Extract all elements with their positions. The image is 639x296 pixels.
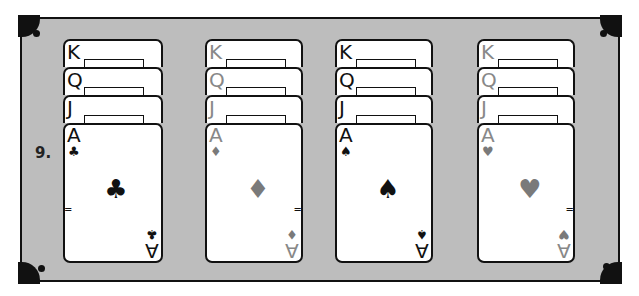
card-rank: J <box>67 96 73 120</box>
card-rank: J <box>209 96 215 120</box>
card-edge-tab <box>226 115 286 123</box>
diamond-icon: ♦ <box>245 175 271 203</box>
card-edge-mark: = <box>566 205 574 215</box>
card-rank: Q <box>67 68 83 92</box>
corner-dot <box>38 265 45 272</box>
club-icon: ♣ <box>68 145 80 159</box>
card-rank: K <box>339 40 352 64</box>
card-rank: A <box>285 240 299 262</box>
card-rank: K <box>209 40 222 64</box>
card-edge-mark: = <box>294 205 302 215</box>
card-king-hearts[interactable]: K <box>477 39 575 67</box>
card-rank: A <box>481 124 495 146</box>
card-ace-spades[interactable]: A ♠ ♠ ♠ A <box>335 123 433 263</box>
card-jack-diamonds[interactable]: J <box>205 95 303 123</box>
card-column-hearts: K Q J A ♥ ♥ = ♥ A <box>477 39 575 263</box>
card-edge-tab <box>356 115 416 123</box>
card-rank: J <box>481 96 487 120</box>
card-edge-tab <box>498 115 558 123</box>
card-rank: Q <box>481 68 497 92</box>
card-edge-mark: = <box>64 205 72 215</box>
card-rank: A <box>339 124 353 146</box>
card-king-clubs[interactable]: K <box>63 39 163 67</box>
card-rank: J <box>339 96 345 120</box>
spade-icon: ♠ <box>340 145 352 159</box>
card-rank: Q <box>339 68 355 92</box>
card-ace-clubs[interactable]: A ♣ ♣ = ♣ A <box>63 123 163 263</box>
card-rank: K <box>67 40 80 64</box>
card-king-diamonds[interactable]: K <box>205 39 303 67</box>
card-edge-tab <box>84 87 144 95</box>
heart-icon: ♥ <box>517 175 543 203</box>
card-jack-hearts[interactable]: J <box>477 95 575 123</box>
card-queen-spades[interactable]: Q <box>335 67 433 95</box>
card-rank: A <box>67 124 81 146</box>
card-rank: K <box>481 40 494 64</box>
card-edge-tab <box>84 59 144 67</box>
card-edge-tab <box>498 59 558 67</box>
card-jack-spades[interactable]: J <box>335 95 433 123</box>
card-edge-tab <box>226 59 286 67</box>
card-king-spades[interactable]: K <box>335 39 433 67</box>
card-edge-tab <box>84 115 144 123</box>
card-rank: Q <box>209 68 225 92</box>
card-column-spades: K Q J A ♠ ♠ ♠ A <box>335 39 433 263</box>
card-rank: A <box>145 240 159 262</box>
corner-dot <box>603 263 610 270</box>
diamond-icon: ♦ <box>210 145 222 159</box>
card-queen-clubs[interactable]: Q <box>63 67 163 95</box>
card-edge-tab <box>498 87 558 95</box>
card-column-clubs: K Q J A ♣ ♣ = ♣ A <box>63 39 163 263</box>
card-queen-hearts[interactable]: Q <box>477 67 575 95</box>
card-edge-tab <box>356 59 416 67</box>
card-edge-tab <box>226 87 286 95</box>
club-icon: ♣ <box>103 175 129 203</box>
card-edge-tab <box>356 87 416 95</box>
spade-icon: ♠ <box>375 175 401 203</box>
heart-icon: ♥ <box>482 145 494 159</box>
card-queen-diamonds[interactable]: Q <box>205 67 303 95</box>
card-jack-clubs[interactable]: J <box>63 95 163 123</box>
card-ace-hearts[interactable]: A ♥ ♥ = ♥ A <box>477 123 575 263</box>
corner-dot <box>33 30 40 37</box>
card-rank: A <box>415 240 429 262</box>
corner-dot <box>600 30 607 37</box>
puzzle-number-label: 9. <box>35 144 51 162</box>
card-column-diamonds: K Q J A ♦ ♦ = ♦ A <box>205 39 303 263</box>
card-ace-diamonds[interactable]: A ♦ ♦ = ♦ A <box>205 123 303 263</box>
card-rank: A <box>557 240 571 262</box>
card-rank: A <box>209 124 223 146</box>
